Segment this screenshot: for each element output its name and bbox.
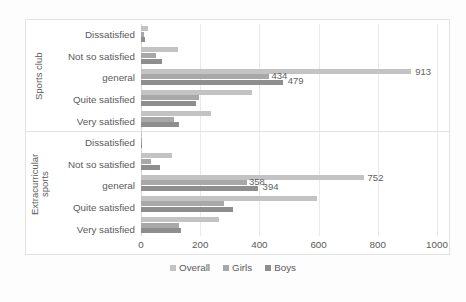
x-tick-label: 0	[138, 239, 143, 250]
bar-group	[141, 194, 437, 215]
bar-overall	[141, 90, 252, 95]
x-tick-label: 200	[192, 239, 208, 250]
category-label: general	[50, 175, 138, 197]
bar-boys	[141, 59, 162, 64]
bar-boys	[141, 122, 179, 127]
bar-girls	[141, 159, 151, 164]
gridline	[437, 24, 438, 236]
bar-girls	[141, 74, 269, 79]
bar-overall	[141, 132, 142, 137]
category-label: Very satisfied	[50, 218, 138, 240]
bar-boys	[141, 80, 283, 85]
bar-boys	[141, 228, 181, 233]
legend-item-overall[interactable]: Overall	[170, 262, 210, 273]
bar-group	[141, 24, 437, 45]
group-label-extracurricular-sports: Extracurricular sports	[28, 133, 52, 236]
category-label-column: DissatisfiedNot so satisfiedgeneralQuite…	[50, 24, 138, 240]
bar-girls	[141, 53, 156, 58]
plot-area: 434479913358394752	[141, 24, 437, 236]
legend-item-boys[interactable]: Boys	[265, 262, 296, 273]
bar-overall	[141, 217, 219, 222]
legend-swatch-icon	[170, 265, 176, 271]
legend-label: Boys	[274, 262, 296, 273]
category-label: Dissatisfied	[50, 132, 138, 154]
bar-boys	[141, 186, 258, 191]
group-label-sports-club: Sports club	[28, 24, 50, 129]
bar-value-label: 752	[368, 173, 384, 183]
bar-value-label: 434	[271, 71, 287, 81]
category-label: Not so satisfied	[50, 46, 138, 68]
legend-item-girls[interactable]: Girls	[223, 262, 252, 273]
bar-group	[141, 172, 437, 193]
category-label: Not so satisfied	[50, 154, 138, 176]
bar-girls	[141, 117, 174, 122]
x-tick-label: 400	[251, 239, 267, 250]
bar-value-label: 479	[288, 76, 304, 86]
bar-group	[141, 109, 437, 130]
category-label: Very satisfied	[50, 110, 138, 132]
legend-label: Overall	[179, 262, 210, 273]
bar-value-label: 394	[263, 182, 279, 192]
bar-overall	[141, 47, 178, 52]
category-label: Quite satisfied	[50, 197, 138, 219]
x-tick-label: 1000	[426, 239, 448, 250]
x-axis-tick-labels: 02004006008001000	[141, 239, 437, 255]
bar-group	[141, 130, 437, 151]
bar-overall	[141, 153, 172, 158]
bar-group	[141, 151, 437, 172]
category-label: Dissatisfied	[50, 24, 138, 46]
x-tick-label: 800	[370, 239, 386, 250]
bar-boys	[141, 165, 160, 170]
chart-container: Sports club Extracurricular sports Dissa…	[0, 0, 466, 302]
bar-overall	[141, 111, 211, 116]
bar-girls	[141, 32, 144, 37]
bar-girls	[141, 180, 247, 185]
legend-label: Girls	[232, 262, 252, 273]
bar-overall	[141, 26, 148, 31]
legend-swatch-icon	[265, 265, 271, 271]
bar-boys	[141, 143, 142, 148]
bar-group	[141, 45, 437, 66]
bar-value-label: 913	[415, 67, 431, 77]
bar-group	[141, 215, 437, 236]
bar-girls	[141, 201, 224, 206]
legend-swatch-icon	[223, 265, 229, 271]
x-tick-label: 600	[310, 239, 326, 250]
bar-overall	[141, 196, 317, 201]
category-label: general	[50, 67, 138, 89]
bar-boys	[141, 207, 233, 212]
bar-girls	[141, 138, 142, 143]
bar-group	[141, 88, 437, 109]
bar-boys	[141, 101, 196, 106]
bar-boys	[141, 37, 145, 42]
category-label: Quite satisfied	[50, 89, 138, 111]
bar-girls	[141, 223, 179, 228]
bar-girls	[141, 95, 199, 100]
chart-legend: OverallGirlsBoys	[0, 262, 466, 273]
